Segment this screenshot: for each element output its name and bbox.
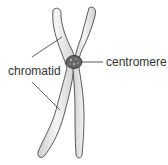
chromatid-leader-upper: [32, 37, 62, 57]
centromere: [66, 56, 82, 69]
right-chromatid: [73, 7, 96, 158]
left-chromatid: [38, 8, 75, 157]
chromatid-leader-lower: [32, 82, 60, 110]
centromere-label: centromere: [106, 56, 167, 68]
chromatid-label: chromatid: [8, 65, 61, 77]
chromosome-diagram: [0, 0, 168, 165]
